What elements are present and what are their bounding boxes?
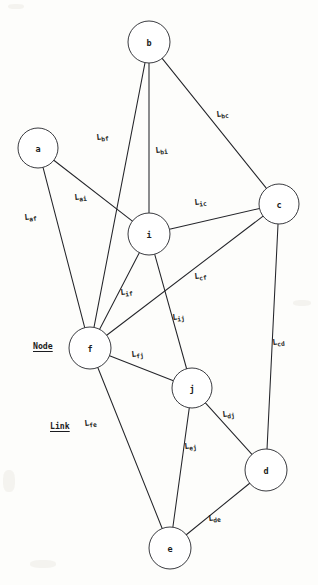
edge-label-subscript: ej [189,444,197,452]
node-label-c: c [276,200,281,210]
edge-L_af [43,167,85,327]
edge-L_ej [173,408,189,527]
edge-L_ic [169,209,259,230]
network-graph: bacifjde [0,0,318,585]
edge-label-L_bi: Lbi [155,145,168,155]
node-label-a: a [35,144,40,154]
edge-label-L_ej: Lej [184,441,197,451]
edge-label-subscript: dj [227,412,235,420]
edge-label-subscript: bi [160,148,168,156]
edge-label-subscript: de [213,516,221,524]
edge-label-L_bc: Lbc [216,109,229,119]
edges-group [43,58,278,534]
edge-label-subscript: fj [136,352,144,360]
nodes-group: bacifjde [18,21,299,569]
edge-L_fj [110,356,174,381]
edge-label-subscript: if [125,290,133,298]
edge-label-subscript: ij [177,315,185,323]
edge-label-L_af: Laf [24,212,37,222]
node-legend: Node [33,341,53,351]
edge-label-L_fj: Lfj [131,349,144,359]
link-legend: Link [50,421,70,431]
edge-label-subscript: ai [79,195,87,203]
node-label-b: b [146,38,151,48]
edge-L_bc [162,58,266,188]
edge-L_fe [98,368,162,529]
edge-label-L_if: Lif [120,287,133,297]
edge-label-L_cd: Lcd [272,337,285,347]
edge-label-L_ai: Lai [74,192,87,202]
edge-label-L_de: Lde [208,513,221,523]
edge-label-L_ij: Lij [172,312,185,322]
edge-label-subscript: fe [89,421,97,429]
edge-label-L_bf: Lbf [96,132,109,142]
edge-label-subscript: bf [101,135,109,143]
edge-L_de [186,483,249,535]
edge-label-subscript: bc [221,112,229,120]
node-label-j: j [189,384,194,394]
node-label-d: d [263,466,268,476]
edge-label-subscript: af [29,215,37,223]
diagram-page: bacifjde LbfLbiLbcLafLaiLicLcfLcdLifLijL… [0,0,318,585]
node-label-e: e [167,544,172,554]
edge-label-L_cf: Lcf [194,271,207,281]
edge-label-L_ic: Lic [194,197,207,207]
node-label-f: f [87,344,92,354]
node-label-i: i [146,230,151,240]
edge-label-L_fe: Lfe [84,418,97,428]
edge-label-subscript: cd [277,340,285,348]
edge-label-L_dj: Ldj [222,409,235,419]
edge-label-subscript: cf [199,274,207,282]
edge-label-subscript: ic [199,200,207,208]
